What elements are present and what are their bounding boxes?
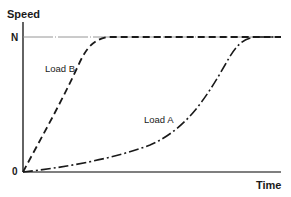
y-tick-zero: 0 bbox=[12, 166, 18, 177]
load-b-curve bbox=[23, 37, 281, 172]
chart-canvas: Speed Time N 0 Load B Load A bbox=[0, 0, 291, 197]
load-a-curve bbox=[23, 37, 281, 172]
x-axis-title: Time bbox=[256, 179, 281, 191]
y-tick-n: N bbox=[11, 32, 18, 43]
load-b-label: Load B bbox=[45, 63, 75, 74]
load-a-label: Load A bbox=[144, 114, 174, 125]
speed-time-chart: Speed Time N 0 Load B Load A bbox=[0, 0, 291, 197]
y-axis-title: Speed bbox=[7, 8, 40, 20]
